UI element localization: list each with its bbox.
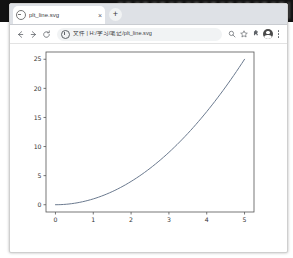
browser-window: plt_line.svg × + [9,3,288,253]
x-tick-label: 1 [91,216,95,223]
y-tick-label: 15 [34,114,42,121]
address-bar[interactable]: 文件 | H:/学习/笔记/plt_line.svg [57,28,222,41]
y-tick-label: 20 [34,85,42,92]
x-tick-label: 4 [205,216,209,223]
y-tick-label: 5 [38,172,42,179]
search-icon[interactable] [226,28,238,41]
extensions-icon[interactable] [250,28,262,41]
menu-dot [278,30,280,32]
reload-icon[interactable] [40,28,53,41]
back-arrow-icon[interactable] [14,28,27,41]
x-tick-label: 5 [243,216,247,223]
profile-avatar-icon[interactable] [262,28,274,41]
plot-frame [46,52,254,212]
new-tab-button[interactable]: + [109,8,122,21]
matplotlib-line-chart: 0510152025012345 [10,44,287,251]
tab-strip: plt_line.svg × + [10,4,287,25]
x-tick-label: 2 [129,216,133,223]
menu-dot [278,33,280,35]
x-tick-label: 3 [167,216,171,223]
page-info-icon[interactable] [61,30,70,39]
close-icon[interactable]: × [96,12,102,19]
y-tick-label: 10 [34,143,42,150]
browser-tab[interactable]: plt_line.svg × [13,6,105,24]
y-tick-label: 25 [34,55,42,62]
address-bar-text: 文件 | H:/学习/笔记/plt_line.svg [73,31,152,37]
chart-root: 0510152025012345 [34,52,254,223]
screenshot-root: plt_line.svg × + [0,0,293,258]
page-viewport: 0510152025012345 [10,44,287,251]
tab-title: plt_line.svg [29,12,96,18]
menu-dot [278,36,280,38]
document-favicon [16,10,26,20]
browser-toolbar: 文件 | H:/学习/笔记/plt_line.svg [10,25,287,44]
y-tick-label: 0 [38,201,42,208]
avatar [263,29,273,39]
star-icon[interactable] [238,28,250,41]
forward-arrow-icon[interactable] [27,28,40,41]
x-tick-label: 0 [53,216,57,223]
three-dots-menu-icon[interactable] [274,28,283,41]
